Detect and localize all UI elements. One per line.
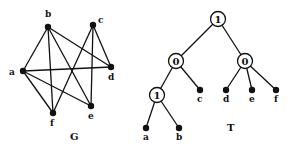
tree-leaf-c xyxy=(197,87,203,93)
tree-internal-node-label-r: 1 xyxy=(215,14,222,25)
tree-leaf-b xyxy=(176,125,182,131)
graph-edge-b-e xyxy=(48,27,91,106)
tree-internal-node-label-rr: 0 xyxy=(242,56,249,67)
graph-node-d xyxy=(108,64,114,70)
tree-internal-node-label-l: 0 xyxy=(173,56,180,67)
tree-leaf-label-d: d xyxy=(223,94,230,104)
graph-edge-a-b xyxy=(23,27,48,71)
graph-caption: G xyxy=(70,131,79,142)
graph-node-label-d: d xyxy=(108,72,115,82)
tree-leaf-label-e: e xyxy=(249,94,255,104)
tree-internal-node-label-ll: 1 xyxy=(154,90,161,101)
graph-node-f xyxy=(50,110,56,116)
graph-node-label-c: c xyxy=(98,15,104,25)
graph-node-e xyxy=(88,103,94,109)
tree-leaf-e xyxy=(249,87,255,93)
graph-edge-c-e xyxy=(91,25,93,106)
tree-leaf-label-a: a xyxy=(143,132,149,142)
graph-node-label-a: a xyxy=(9,67,15,77)
diagram-canvas: abcdefG1001abcdefT xyxy=(0,0,293,151)
graph-edge-a-f xyxy=(23,71,53,113)
graph-node-label-b: b xyxy=(45,9,51,19)
graph-edge-a-d xyxy=(23,67,111,71)
graph-node-a xyxy=(20,68,26,74)
tree-leaf-f xyxy=(273,87,279,93)
graph-edge-b-d xyxy=(48,27,111,67)
tree-leaf-label-b: b xyxy=(176,132,182,142)
tree-leaf-a xyxy=(143,125,149,131)
tree-caption: T xyxy=(227,122,235,133)
tree-edge-r-l xyxy=(176,19,218,61)
graph-node-label-e: e xyxy=(88,111,94,121)
graph-node-b xyxy=(45,24,51,30)
graph-node-c xyxy=(90,22,96,28)
tree-leaf-d xyxy=(223,87,229,93)
tree-leaf-label-f: f xyxy=(274,94,279,104)
tree-leaf-label-c: c xyxy=(197,94,203,104)
graph-node-label-f: f xyxy=(50,118,55,128)
figure: abcdefG1001abcdefT xyxy=(0,0,293,151)
